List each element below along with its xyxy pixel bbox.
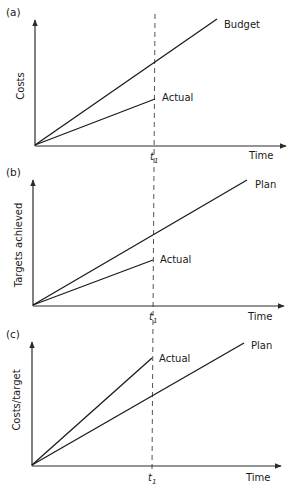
panel-b-y-label: Targets achieved — [13, 203, 24, 289]
panel-c-plan-label: Plan — [251, 340, 272, 351]
panel-a-budget-line — [35, 19, 217, 145]
panel-c-label: (c) — [6, 328, 20, 340]
t1-dashed-line — [152, 14, 155, 470]
panel-a-label: (a) — [6, 6, 21, 18]
panel-a-actual-label: Actual — [162, 92, 193, 103]
panel-b-plan-line — [33, 180, 247, 305]
panel-b-plan-label: Plan — [255, 179, 276, 190]
panel-b-label: (b) — [6, 166, 21, 178]
panel-a-y-label: Costs — [15, 72, 26, 99]
panel-c: (c) Costs/target Time t1 Actual Plan — [6, 328, 281, 486]
panel-c-actual-line — [32, 358, 152, 465]
panel-c-y-label: Costs/target — [11, 369, 22, 430]
figure: (a) Costs Time t1 Budget Actual (b) Targ… — [0, 0, 289, 488]
panel-b: (b) Targets achieved Time t1 Plan Actual — [6, 166, 284, 325]
panel-b-x-label: Time — [247, 311, 272, 322]
panel-b-actual-label: Actual — [160, 254, 191, 265]
panel-b-actual-line — [33, 260, 153, 305]
panel-a: (a) Costs Time t1 Budget Actual — [6, 6, 286, 165]
panel-c-x-label: Time — [245, 472, 270, 483]
panel-c-actual-label: Actual — [159, 353, 190, 364]
panel-a-actual-line — [35, 99, 155, 145]
panel-c-t1-label: t1 — [148, 472, 156, 486]
panel-a-x-label: Time — [248, 150, 273, 161]
panel-a-budget-label: Budget — [224, 19, 260, 30]
panel-c-plan-line — [32, 343, 244, 465]
